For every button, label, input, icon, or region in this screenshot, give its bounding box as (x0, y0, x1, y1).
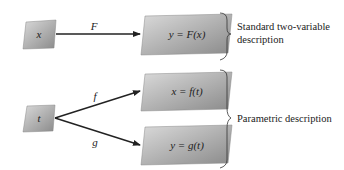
node-g-output: y = g(t) (141, 125, 232, 165)
node-F-output: y = F(x) (141, 14, 232, 55)
node-x: x (23, 20, 56, 49)
node-x-label: x (36, 28, 42, 40)
description-standard-line1: Standard two-variable (237, 20, 330, 33)
edge-f: f (55, 90, 140, 118)
description-parametric: Parametric description (237, 112, 332, 125)
edge-F-label: F (90, 20, 98, 32)
node-f-output-label: x = f(t) (170, 85, 203, 98)
node-F-output-label: y = F(x) (168, 28, 206, 41)
edge-F: F (56, 20, 140, 34)
edge-f-label: f (93, 90, 98, 102)
description-standard: Standard two-variable description (237, 20, 330, 46)
description-standard-line2: description (237, 33, 330, 46)
edge-g-label: g (92, 136, 98, 148)
node-f-output: x = f(t) (141, 72, 232, 111)
edge-g: g (55, 118, 140, 148)
node-g-output-label: y = g(t) (169, 139, 204, 152)
node-t: t (23, 105, 55, 132)
